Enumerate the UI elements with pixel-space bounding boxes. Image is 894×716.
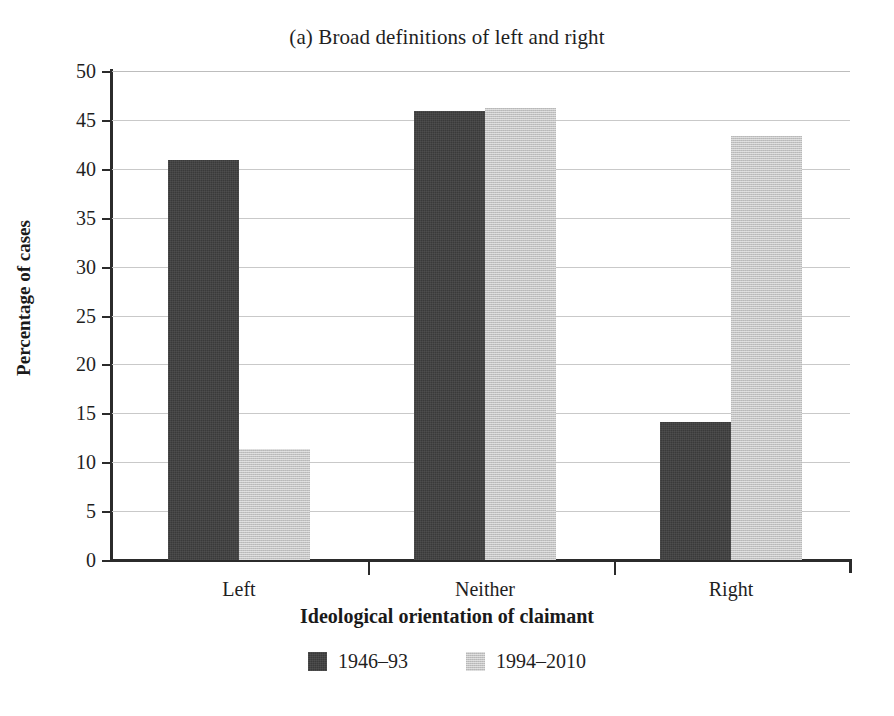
y-tick-45 <box>102 120 111 122</box>
x-axis-title: Ideological orientation of claimant <box>0 605 894 628</box>
gridline-50 <box>112 71 850 72</box>
y-tick-label-50: 50 <box>26 61 96 81</box>
y-tick-40 <box>102 169 111 171</box>
y-tick-20 <box>102 364 111 366</box>
y-tick-label-0: 0 <box>26 550 96 570</box>
y-tick-label-35: 35 <box>26 208 96 228</box>
y-tick-15 <box>102 413 111 415</box>
y-tick-label-30: 30 <box>26 257 96 277</box>
legend-swatch-icon <box>308 652 327 671</box>
y-tick-label-20: 20 <box>26 354 96 374</box>
y-tick-50 <box>102 71 111 73</box>
y-tick-label-45: 45 <box>26 110 96 130</box>
bar-left-1994_2010 <box>239 449 310 560</box>
x-tick-separator-1 <box>368 561 370 575</box>
y-tick-0 <box>102 560 111 562</box>
y-tick-label-40: 40 <box>26 159 96 179</box>
x-tick-label-neither: Neither <box>395 578 575 601</box>
bar-left-1946_93 <box>168 160 239 560</box>
bar-neither-1994_2010 <box>485 108 556 560</box>
legend-item-1946_93[interactable]: 1946–93 <box>308 650 408 673</box>
y-tick-25 <box>102 316 111 318</box>
legend-swatch-icon <box>466 652 485 671</box>
y-tick-35 <box>102 218 111 220</box>
x-tick-label-left: Left <box>149 578 329 601</box>
bar-right-1946_93 <box>660 422 731 560</box>
bar-right-1994_2010 <box>731 136 802 560</box>
x-tick-separator-2 <box>614 561 616 575</box>
y-tick-5 <box>102 511 111 513</box>
y-tick-label-5: 5 <box>26 501 96 521</box>
x-tick-label-right: Right <box>641 578 821 601</box>
legend-item-1994_2010[interactable]: 1994–2010 <box>466 650 586 673</box>
y-tick-label-10: 10 <box>26 452 96 472</box>
y-tick-30 <box>102 267 111 269</box>
chart-legend: 1946–931994–2010 <box>0 650 894 673</box>
x-axis-right-cap <box>849 559 852 573</box>
chart-figure: (a) Broad definitions of left and right … <box>0 0 894 716</box>
chart-title: (a) Broad definitions of left and right <box>0 25 894 50</box>
bar-neither-1946_93 <box>414 111 485 560</box>
y-tick-label-25: 25 <box>26 306 96 326</box>
y-tick-label-15: 15 <box>26 403 96 423</box>
y-axis-title: Percentage of cases <box>13 188 35 408</box>
plot-area <box>112 71 850 560</box>
legend-label: 1994–2010 <box>496 650 586 673</box>
y-tick-10 <box>102 462 111 464</box>
legend-label: 1946–93 <box>338 650 408 673</box>
